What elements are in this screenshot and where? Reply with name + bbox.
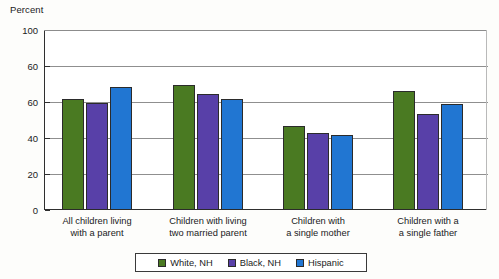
- legend-label: Hispanic: [308, 258, 344, 268]
- bar: [393, 91, 415, 210]
- y-axis-tick-label: 20: [4, 169, 38, 180]
- y-axis-tick-labels: 100606040200: [0, 30, 38, 210]
- bar-group: [283, 30, 353, 210]
- y-axis-tick-mark: [45, 66, 50, 67]
- bar: [441, 104, 463, 210]
- bar: [221, 99, 243, 210]
- x-axis-category-label: Children witha single mother: [258, 216, 378, 239]
- chart-legend: White, NHBlack, NHHispanic: [135, 253, 367, 272]
- y-axis-tick-mark: [45, 174, 50, 175]
- bar: [331, 135, 353, 210]
- y-axis-tick-label: 60: [4, 97, 38, 108]
- x-axis-category-label: Children with aa single father: [368, 216, 488, 239]
- x-axis-category-label: Children with livingtwo married parent: [148, 216, 268, 239]
- bar: [173, 85, 195, 210]
- bar-group: [393, 30, 463, 210]
- bar: [86, 103, 108, 210]
- x-axis-category-line: Children with: [258, 216, 378, 228]
- y-axis-tick-label: 60: [4, 61, 38, 72]
- bar: [197, 94, 219, 210]
- y-axis-tick-label: 100: [4, 25, 38, 36]
- y-axis-tick-mark: [45, 210, 50, 211]
- bar: [417, 114, 439, 210]
- bar-group: [62, 30, 132, 210]
- legend-swatch-icon: [158, 259, 166, 267]
- x-axis-category-line: All children living: [37, 216, 157, 228]
- legend-item: White, NH: [158, 258, 212, 268]
- y-axis-tick-label: 40: [4, 133, 38, 144]
- y-axis-tick-mark: [45, 102, 50, 103]
- y-axis-tick-label: 0: [4, 205, 38, 216]
- legend-item: Hispanic: [296, 258, 344, 268]
- legend-item: Black, NH: [228, 258, 281, 268]
- plot-right-border: [486, 30, 487, 210]
- bar-group: [173, 30, 243, 210]
- x-axis-category-label: All children livingwith a parent: [37, 216, 157, 239]
- x-axis-category-line: with a parent: [37, 228, 157, 240]
- x-axis-category-line: Children with living: [148, 216, 268, 228]
- bar: [110, 87, 132, 210]
- chart-page: Percent 100606040200 All children living…: [0, 0, 499, 279]
- x-axis-category-line: a single mother: [258, 228, 378, 240]
- legend-label: White, NH: [170, 258, 212, 268]
- x-axis-category-line: Children with a: [368, 216, 488, 228]
- y-axis-tick-mark: [45, 138, 50, 139]
- legend-swatch-icon: [228, 259, 236, 267]
- legend-label: Black, NH: [240, 258, 281, 268]
- x-axis-category-line: a single father: [368, 228, 488, 240]
- bar: [307, 133, 329, 210]
- legend-swatch-icon: [296, 259, 304, 267]
- bar: [62, 99, 84, 210]
- y-axis-title: Percent: [10, 4, 43, 15]
- x-axis-category-line: two married parent: [148, 228, 268, 240]
- bar: [283, 126, 305, 210]
